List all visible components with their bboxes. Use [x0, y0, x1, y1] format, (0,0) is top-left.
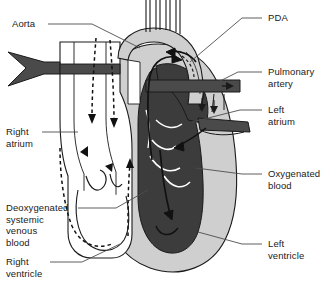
label-left-ventricle: Left ventricle: [268, 238, 304, 261]
label-pda: PDA: [268, 12, 288, 24]
leader-pda: [190, 18, 262, 62]
label-left-atrium: Left atrium: [268, 104, 295, 127]
label-pulmonary-artery: Pulmonary artery: [268, 66, 314, 89]
heart-pda-diagram: Aorta PDA Pulmonary artery Right atrium …: [0, 0, 325, 290]
label-right-atrium: Right atrium: [6, 126, 33, 149]
label-oxygenated-blood: Oxygenated blood: [268, 168, 320, 191]
label-right-ventricle: Right ventricle: [6, 256, 42, 279]
label-deoxygenated-blood: Deoxygenated systemic venous blood: [6, 202, 68, 248]
label-aorta: Aorta: [12, 18, 35, 30]
